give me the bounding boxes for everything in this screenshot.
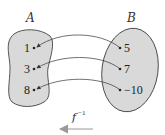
inverse-function-mapping-diagram: A B 1 3 8 5 7 −10 f −1 [0,0,165,135]
set-a-element: 8 [24,83,30,97]
set-b-element: −10 [124,83,143,97]
point-dot [119,89,122,92]
point-dot [33,47,36,50]
point-dot [33,68,36,71]
set-a-element: 1 [24,41,30,55]
point-dot [119,68,122,71]
point-dot [33,89,36,92]
set-a-element: 3 [24,62,30,76]
set-b-element: 7 [124,62,130,76]
function-superscript: −1 [78,109,86,117]
set-b-element: 5 [124,41,130,55]
set-b-region [96,25,163,116]
function-label: f [71,111,78,124]
set-a-label: A [25,11,35,25]
set-b-label: B [126,11,136,25]
point-dot [119,47,122,50]
